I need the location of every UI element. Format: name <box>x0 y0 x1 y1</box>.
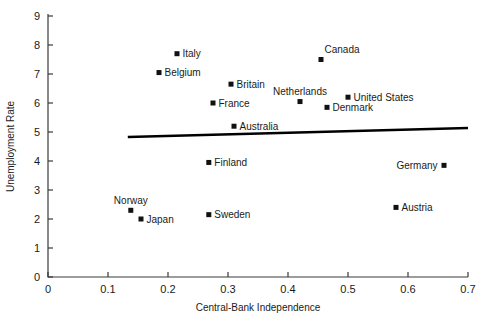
x-axis-tick-label: 0.6 <box>400 283 415 295</box>
y-axis-tick-label: 9 <box>34 10 40 22</box>
y-axis-tick-label: 3 <box>34 184 40 196</box>
trend-line <box>128 128 468 137</box>
y-axis-tick-label: 1 <box>34 242 40 254</box>
data-point-marker[interactable] <box>157 70 162 75</box>
data-point-marker[interactable] <box>298 99 303 104</box>
x-axis-tick-label: 0.1 <box>100 283 115 295</box>
y-axis-tick-label: 0 <box>34 271 40 283</box>
data-point-label: Netherlands <box>273 86 327 97</box>
scatter-chart: 00.10.20.30.40.50.60.70123456789Central-… <box>0 0 490 326</box>
data-point-marker[interactable] <box>206 212 211 217</box>
data-point-marker[interactable] <box>232 124 237 129</box>
y-axis-title: Unemployment Rate <box>5 100 16 192</box>
x-axis-tick-label: 0 <box>45 283 51 295</box>
y-axis-tick-label: 8 <box>34 39 40 51</box>
axis-lines <box>48 14 468 277</box>
data-point-marker[interactable] <box>319 57 324 62</box>
data-point-label: Germany <box>396 160 437 171</box>
data-point-label: Austria <box>402 202 434 213</box>
data-point-marker[interactable] <box>139 217 144 222</box>
data-point-label: Sweden <box>214 209 250 220</box>
x-axis-tick-label: 0.7 <box>460 283 475 295</box>
data-point-marker[interactable] <box>229 82 234 87</box>
data-point-marker[interactable] <box>211 101 216 106</box>
y-axis-tick-label: 4 <box>34 155 40 167</box>
y-axis-tick-label: 7 <box>34 68 40 80</box>
data-point-marker[interactable] <box>394 205 399 210</box>
y-axis-tick-label: 6 <box>34 97 40 109</box>
data-point-label: Finland <box>214 157 247 168</box>
chart-canvas: 00.10.20.30.40.50.60.70123456789Central-… <box>0 0 490 326</box>
data-point-marker[interactable] <box>175 51 180 56</box>
y-axis-tick-label: 2 <box>34 213 40 225</box>
data-point-label: Japan <box>147 214 174 225</box>
y-axis-tick-label: 5 <box>34 126 40 138</box>
data-point-label: Denmark <box>333 102 375 113</box>
x-axis-title: Central-Bank Independence <box>196 302 321 313</box>
data-point-label: France <box>219 98 251 109</box>
data-point-marker[interactable] <box>206 160 211 165</box>
data-point-label: Britain <box>237 79 265 90</box>
x-axis-tick-label: 0.3 <box>220 283 235 295</box>
data-point-label: Norway <box>114 195 148 206</box>
x-axis-tick-label: 0.4 <box>280 283 295 295</box>
x-axis-tick-label: 0.2 <box>160 283 175 295</box>
data-point-label: Italy <box>183 48 201 59</box>
data-point-label: Canada <box>325 44 360 55</box>
data-point-label: Australia <box>240 121 279 132</box>
data-point-marker[interactable] <box>442 163 447 168</box>
data-point-marker[interactable] <box>325 105 330 110</box>
data-point-label: Belgium <box>165 67 201 78</box>
data-point-marker[interactable] <box>346 95 351 100</box>
data-point-marker[interactable] <box>128 208 133 213</box>
x-axis-tick-label: 0.5 <box>340 283 355 295</box>
